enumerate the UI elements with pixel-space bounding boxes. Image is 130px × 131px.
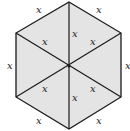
label-outer-bottom-right: x [96,115,102,126]
label-inner-bottom: x [72,92,78,103]
label-inner-upper-right: x [90,36,96,47]
label-inner-lower-right: x [90,83,96,94]
label-outer-left: x [7,60,13,71]
label-outer-top-left: x [36,4,42,15]
label-outer-top-right: x [96,4,102,15]
label-inner-upper-left: x [42,36,48,47]
label-outer-right: x [125,60,130,71]
hexagon-diagram: x x x x x x x x x x x x [0,0,130,131]
center-point [68,65,71,68]
label-inner-top: x [72,28,78,39]
label-inner-lower-left: x [42,83,48,94]
label-outer-bottom-left: x [36,115,42,126]
